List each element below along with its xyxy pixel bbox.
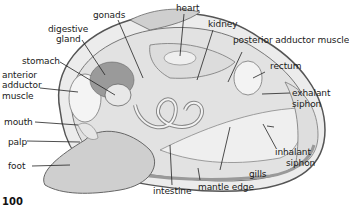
label-gills: gills	[249, 169, 266, 179]
label-intestine: intestine	[153, 186, 191, 196]
label-rectum: rectum	[270, 61, 301, 71]
label-anterior-adductor-line3: muscle	[2, 91, 34, 101]
posterior-adductor-muscle-shape	[234, 61, 262, 95]
label-exhalant-siphon-line2: siphon	[292, 99, 321, 109]
label-anterior-adductor-line2: adductor	[2, 80, 42, 90]
label-digestive-gland-line2: gland	[56, 34, 81, 44]
label-stomach: stomach	[22, 56, 60, 66]
label-exhalant-siphon-line1: exhalant	[292, 88, 330, 98]
label-foot: foot	[8, 161, 25, 171]
label-inhalant-siphon-line2: siphon	[286, 158, 315, 168]
label-digestive-gland-line1: digestive	[48, 24, 88, 34]
page-number: 100	[2, 197, 23, 207]
foot-shape	[44, 131, 155, 193]
label-kidney: kidney	[208, 19, 237, 29]
label-gonads: gonads	[93, 10, 125, 20]
label-posterior-adductor-muscle: posterior adductor muscle	[233, 35, 349, 45]
label-heart: heart	[176, 3, 200, 13]
label-palp: palp	[8, 137, 27, 147]
label-anterior-adductor-line1: anterior	[2, 70, 37, 80]
stomach-shape	[105, 84, 131, 106]
label-inhalant-siphon-line1: inhalant	[275, 147, 311, 157]
label-mouth: mouth	[4, 117, 33, 127]
label-mantle-edge: mantle edge	[198, 182, 254, 192]
